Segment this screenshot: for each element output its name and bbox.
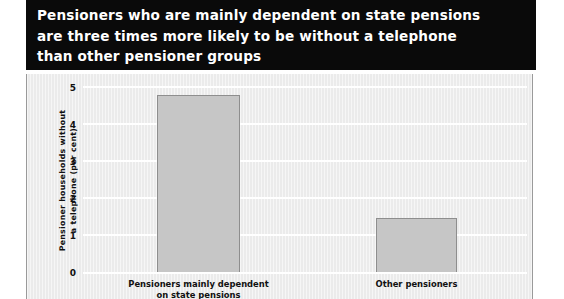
x-axis-category-label: Pensioners mainly dependent on state pen… bbox=[128, 279, 268, 299]
bar bbox=[157, 95, 240, 273]
plot-area: 012345 Pensioners mainly dependent on st… bbox=[83, 88, 527, 273]
gridline bbox=[83, 197, 527, 199]
y-axis-tick-label: 1 bbox=[70, 231, 76, 241]
x-axis-baseline bbox=[83, 272, 527, 274]
chart-panel: Pensioner households without a telephone… bbox=[26, 74, 533, 299]
y-axis-tick-label: 2 bbox=[70, 194, 76, 204]
chart-title-banner: Pensioners who are mainly dependent on s… bbox=[26, 0, 536, 70]
chart-title: Pensioners who are mainly dependent on s… bbox=[37, 5, 526, 67]
y-axis-tick-label: 0 bbox=[70, 268, 76, 278]
y-axis-tick-label: 4 bbox=[70, 120, 76, 130]
bar bbox=[376, 218, 457, 274]
y-axis-title: Pensioner households without a telephone… bbox=[55, 88, 81, 273]
gridline bbox=[83, 123, 527, 125]
y-axis-tick-label: 5 bbox=[70, 83, 76, 93]
gridline bbox=[83, 86, 527, 88]
gridline bbox=[83, 234, 527, 236]
y-axis-tick-label: 3 bbox=[70, 157, 76, 167]
x-axis-category-label: Other pensioners bbox=[376, 279, 458, 290]
gridline bbox=[83, 160, 527, 162]
